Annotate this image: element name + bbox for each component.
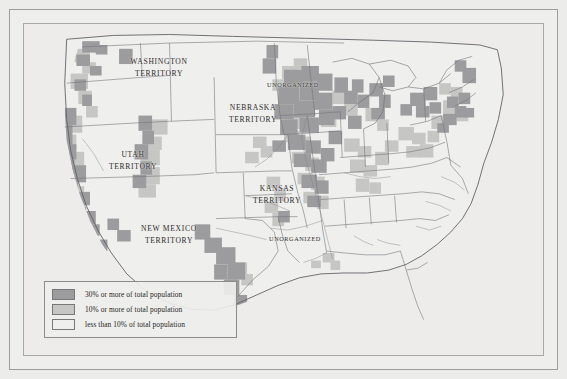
legend-row-low: less than 10% of total population xyxy=(45,317,236,332)
legend-swatch-30-percent xyxy=(52,289,75,300)
legend-swatch-10-percent xyxy=(52,304,75,315)
legend-label-10-percent: 10% or more of total population xyxy=(85,305,182,314)
map-legend: 30% or more of total population 10% or m… xyxy=(44,281,237,338)
legend-row-high: 30% or more of total population xyxy=(45,287,236,302)
map-page: WASHINGTON TERRITORY NEBRASKA TERRITORY … xyxy=(0,0,567,379)
frame-outer-rule: WASHINGTON TERRITORY NEBRASKA TERRITORY … xyxy=(9,9,558,370)
frame-inner-rule: WASHINGTON TERRITORY NEBRASKA TERRITORY … xyxy=(23,23,544,356)
legend-label-30-percent: 30% or more of total population xyxy=(85,290,182,299)
legend-swatch-less-than-10-percent xyxy=(52,319,75,330)
legend-row-mid: 10% or more of total population xyxy=(45,302,236,317)
legend-label-less-than-10-percent: less than 10% of total population xyxy=(85,320,185,329)
